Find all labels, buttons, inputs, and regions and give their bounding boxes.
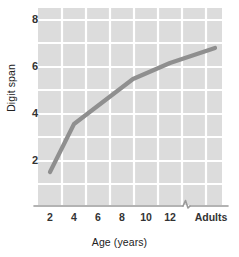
plot-background (38, 8, 222, 205)
x-tick-adults: Adults (195, 211, 228, 223)
y-tick-labels: 8 6 4 2 (6, 0, 38, 257)
x-tick-12: 12 (164, 211, 176, 223)
x-axis-title: Age (years) (0, 236, 239, 248)
x-tick-10: 10 (140, 211, 152, 223)
x-tick-6: 6 (95, 211, 101, 223)
y-axis-title: Digit span (5, 53, 17, 123)
x-tick-8: 8 (119, 211, 125, 223)
x-tick-2: 2 (47, 211, 53, 223)
x-tick-4: 4 (71, 211, 77, 223)
y-tick-8: 8 (8, 13, 38, 25)
y-tick-2: 2 (8, 154, 38, 166)
chart-container: 8 6 4 2 2 4 6 8 10 12 Adults Digit span … (0, 0, 239, 257)
